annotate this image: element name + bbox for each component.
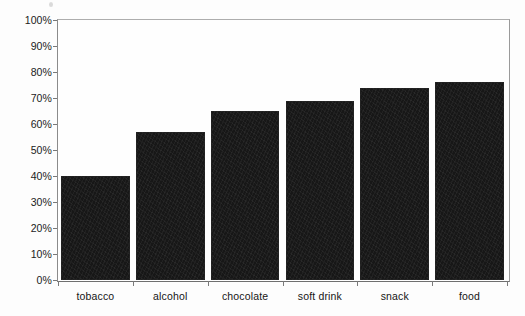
y-axis-tick: 20% xyxy=(31,221,57,235)
y-axis-tick-mark xyxy=(53,20,57,21)
bar-slot xyxy=(283,20,358,280)
bar-slot xyxy=(133,20,208,280)
y-axis-tick-mark xyxy=(53,202,57,203)
x-axis-tick-mark xyxy=(208,281,209,286)
y-axis-tick: 100% xyxy=(25,13,57,27)
y-axis-tick: 10% xyxy=(31,247,57,261)
y-axis-tick: 50% xyxy=(31,143,57,157)
bar[interactable] xyxy=(136,132,205,280)
bar[interactable] xyxy=(435,82,504,280)
x-axis-tick-mark xyxy=(58,281,59,286)
bar[interactable] xyxy=(61,176,130,280)
y-axis-tick-mark xyxy=(53,46,57,47)
x-axis-category-label: alcohol xyxy=(133,290,208,303)
y-axis-tick-mark xyxy=(53,150,57,151)
y-axis-tick-mark xyxy=(53,176,57,177)
bar-slot xyxy=(357,20,432,280)
x-axis-category-label: tobacco xyxy=(58,290,133,303)
y-axis-tick-mark xyxy=(53,72,57,73)
x-axis-tick-mark xyxy=(507,281,508,286)
y-axis-tick: 30% xyxy=(31,195,57,209)
bar-slot xyxy=(208,20,283,280)
bar-chart: 100%90%80%70%60%50%40%30%20%10%0% tobacc… xyxy=(0,0,525,316)
x-axis-tick-mark xyxy=(357,281,358,286)
y-axis-tick-mark xyxy=(53,124,57,125)
bar-slot xyxy=(58,20,133,280)
y-axis-tick-mark xyxy=(53,254,57,255)
y-axis-tick: 80% xyxy=(31,65,57,79)
x-axis-category-label: food xyxy=(432,290,507,303)
y-axis-tick-mark xyxy=(53,228,57,229)
y-axis: 100%90%80%70%60%50%40%30%20%10%0% xyxy=(0,0,57,300)
x-axis-category-label: snack xyxy=(357,290,432,303)
y-axis-tick-mark xyxy=(53,98,57,99)
x-axis-category-label: chocolate xyxy=(208,290,283,303)
y-axis-tick: 70% xyxy=(31,91,57,105)
bar[interactable] xyxy=(286,101,355,280)
y-axis-tick: 40% xyxy=(31,169,57,183)
x-axis-category-label: soft drink xyxy=(283,290,358,303)
y-axis-tick: 60% xyxy=(31,117,57,131)
bar[interactable] xyxy=(211,111,280,280)
x-axis-tick-mark xyxy=(283,281,284,286)
x-axis: tobaccoalcoholchocolatesoft drinksnackfo… xyxy=(0,281,525,316)
x-axis-tick-mark xyxy=(432,281,433,286)
x-axis-tick-mark xyxy=(133,281,134,286)
y-axis-tick: 90% xyxy=(31,39,57,53)
bar-slot xyxy=(432,20,507,280)
bars-layer xyxy=(58,20,507,280)
bar[interactable] xyxy=(360,88,429,280)
